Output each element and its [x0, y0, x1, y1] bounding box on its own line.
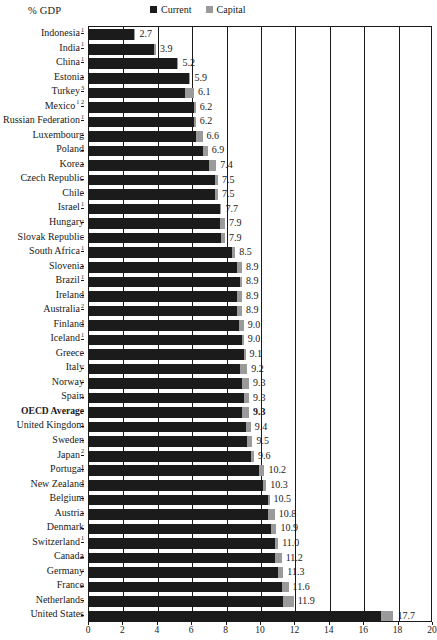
bar-segment-capital[interactable] [215, 175, 218, 186]
bar-segment-current[interactable] [89, 480, 263, 491]
stacked-bar[interactable] [89, 378, 249, 389]
stacked-bar[interactable] [89, 117, 196, 128]
stacked-bar[interactable] [89, 291, 242, 302]
bar-segment-capital[interactable] [220, 218, 225, 229]
bar-segment-current[interactable] [89, 349, 244, 360]
bar-segment-capital[interactable] [271, 524, 276, 535]
bar-segment-capital[interactable] [247, 436, 252, 447]
bar-segment-capital[interactable] [232, 247, 235, 258]
bar-segment-capital[interactable] [203, 146, 208, 157]
bar-segment-capital[interactable] [244, 393, 249, 404]
stacked-bar[interactable] [89, 407, 249, 418]
bar-segment-current[interactable] [89, 131, 196, 142]
bar-segment-current[interactable] [89, 335, 242, 346]
bar-segment-capital[interactable] [244, 349, 246, 360]
stacked-bar[interactable] [89, 277, 242, 288]
bar-segment-capital[interactable] [268, 495, 270, 506]
bar-segment-capital[interactable] [237, 291, 242, 302]
bar-segment-capital[interactable] [242, 335, 244, 346]
stacked-bar[interactable] [89, 509, 275, 520]
stacked-bar[interactable] [89, 611, 393, 622]
stacked-bar[interactable] [89, 451, 254, 462]
stacked-bar[interactable] [89, 58, 178, 69]
bar-segment-capital[interactable] [154, 44, 156, 55]
bar-segment-capital[interactable] [194, 102, 196, 113]
bar-segment-current[interactable] [89, 291, 237, 302]
bar-segment-current[interactable] [89, 247, 232, 258]
stacked-bar[interactable] [89, 218, 225, 229]
bar-segment-capital[interactable] [196, 131, 203, 142]
stacked-bar[interactable] [89, 204, 221, 215]
bar-segment-current[interactable] [89, 393, 244, 404]
stacked-bar[interactable] [89, 538, 278, 549]
bar-segment-current[interactable] [89, 88, 185, 99]
bar-segment-current[interactable] [89, 262, 237, 273]
stacked-bar[interactable] [89, 306, 242, 317]
bar-segment-current[interactable] [89, 378, 242, 389]
bar-segment-capital[interactable] [239, 320, 244, 331]
bar-segment-current[interactable] [89, 160, 209, 171]
bar-segment-current[interactable] [89, 306, 237, 317]
bar-segment-capital[interactable] [240, 364, 247, 375]
bar-segment-current[interactable] [89, 553, 275, 564]
bar-segment-current[interactable] [89, 73, 189, 84]
stacked-bar[interactable] [89, 364, 247, 375]
bar-segment-capital[interactable] [240, 277, 242, 288]
stacked-bar[interactable] [89, 436, 252, 447]
bar-segment-capital[interactable] [251, 451, 254, 462]
bar-segment-capital[interactable] [185, 88, 194, 99]
bar-segment-current[interactable] [89, 102, 194, 113]
stacked-bar[interactable] [89, 233, 225, 244]
stacked-bar[interactable] [89, 349, 246, 360]
stacked-bar[interactable] [89, 480, 266, 491]
bar-segment-current[interactable] [89, 58, 177, 69]
bar-segment-current[interactable] [89, 524, 271, 535]
bar-segment-current[interactable] [89, 436, 247, 447]
bar-segment-current[interactable] [89, 611, 381, 622]
bar-segment-capital[interactable] [275, 538, 278, 549]
bar-segment-capital[interactable] [237, 262, 242, 273]
bar-segment-capital[interactable] [220, 204, 222, 215]
bar-segment-capital[interactable] [283, 596, 293, 607]
bar-segment-current[interactable] [89, 320, 239, 331]
stacked-bar[interactable] [89, 262, 242, 273]
bar-segment-current[interactable] [89, 509, 268, 520]
stacked-bar[interactable] [89, 422, 251, 433]
bar-segment-capital[interactable] [237, 306, 242, 317]
bar-segment-current[interactable] [89, 422, 246, 433]
bar-segment-current[interactable] [89, 596, 283, 607]
stacked-bar[interactable] [89, 73, 190, 84]
stacked-bar[interactable] [89, 247, 235, 258]
bar-segment-capital[interactable] [134, 29, 136, 40]
bar-segment-capital[interactable] [177, 58, 179, 69]
stacked-bar[interactable] [89, 160, 216, 171]
bar-segment-current[interactable] [89, 233, 221, 244]
stacked-bar[interactable] [89, 146, 208, 157]
stacked-bar[interactable] [89, 596, 294, 607]
bar-segment-current[interactable] [89, 451, 251, 462]
stacked-bar[interactable] [89, 175, 218, 186]
stacked-bar[interactable] [89, 102, 196, 113]
stacked-bar[interactable] [89, 582, 289, 593]
stacked-bar[interactable] [89, 335, 244, 346]
bar-segment-capital[interactable] [263, 480, 266, 491]
stacked-bar[interactable] [89, 465, 264, 476]
bar-segment-capital[interactable] [268, 509, 275, 520]
stacked-bar[interactable] [89, 524, 276, 535]
bar-segment-current[interactable] [89, 117, 194, 128]
bar-segment-capital[interactable] [242, 378, 249, 389]
bar-segment-capital[interactable] [275, 553, 282, 564]
bar-segment-current[interactable] [89, 204, 220, 215]
stacked-bar[interactable] [89, 320, 244, 331]
bar-segment-current[interactable] [89, 582, 282, 593]
bar-segment-current[interactable] [89, 44, 154, 55]
bar-segment-capital[interactable] [242, 407, 249, 418]
bar-segment-current[interactable] [89, 189, 215, 200]
stacked-bar[interactable] [89, 29, 135, 40]
bar-segment-capital[interactable] [381, 611, 393, 622]
bar-segment-current[interactable] [89, 567, 278, 578]
bar-segment-current[interactable] [89, 175, 215, 186]
bar-segment-capital[interactable] [259, 465, 264, 476]
stacked-bar[interactable] [89, 393, 249, 404]
stacked-bar[interactable] [89, 567, 283, 578]
